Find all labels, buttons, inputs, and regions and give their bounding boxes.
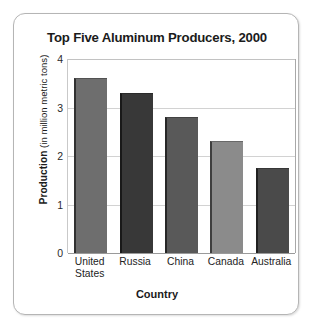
x-label-line: United [67,256,112,268]
x-axis-category-labels: UnitedStatesRussiaChinaCanadaAustralia [67,256,294,290]
x-axis-title: Country [14,288,300,300]
x-label-line: Canada [203,256,248,268]
x-label-china: China [158,256,203,268]
x-label-united-states: UnitedStates [67,256,112,279]
gridline-0 [68,253,295,254]
bar-china [165,117,198,253]
bar-australia [256,168,289,253]
chart-title: Top Five Aluminum Producers, 2000 [14,30,300,45]
x-label-line: Australia [249,256,294,268]
bar-series [67,59,294,253]
bar-united-states [74,78,107,253]
bar-canada [210,141,243,253]
x-label-canada: Canada [203,256,248,268]
y-tick-label-4: 4 [41,53,63,65]
x-label-line: States [67,268,112,280]
bar-russia [120,93,153,253]
y-tick-label-0: 0 [41,247,63,259]
x-label-line: China [158,256,203,268]
y-tick-label-1: 1 [41,199,63,211]
x-label-australia: Australia [249,256,294,268]
chart-figure-frame: Top Five Aluminum Producers, 2000 Produc… [13,13,299,315]
y-tick-label-3: 3 [41,102,63,114]
y-tick-label-2: 2 [41,150,63,162]
x-label-line: Russia [112,256,157,268]
y-axis-tick-labels: 43210 [37,59,63,253]
x-label-russia: Russia [112,256,157,268]
